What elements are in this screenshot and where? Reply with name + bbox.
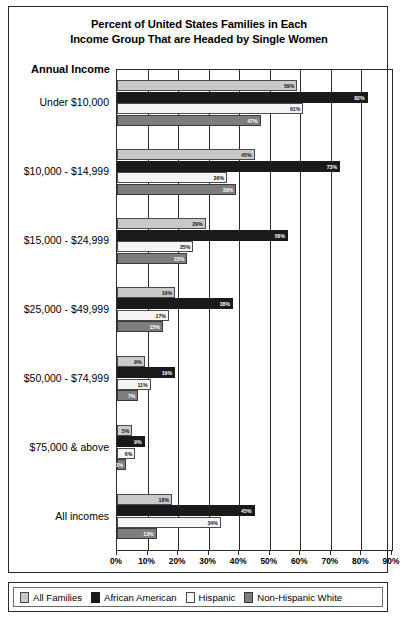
bar[interactable]: 82% [117, 92, 368, 103]
x-axis-tick [116, 551, 117, 555]
x-axis-tick [360, 551, 361, 555]
x-axis: 0%10%20%30%40%50%60%70%80%90% [116, 551, 391, 573]
bar-group: $15,000 - $24,99929%56%25%23% [117, 207, 392, 276]
chart-card: Percent of United States Families in Eac… [8, 6, 388, 573]
x-axis-tick [208, 551, 209, 555]
bar[interactable]: 38% [117, 298, 233, 309]
legend-item[interactable]: Non-Hispanic White [244, 592, 342, 603]
category-label: $25,000 - $49,999 [0, 303, 109, 315]
bar[interactable]: 36% [117, 172, 227, 183]
bar-value-label: 15% [149, 323, 159, 331]
bar-value-label: 18% [159, 496, 169, 504]
bar-value-label: 59% [284, 82, 294, 90]
bar[interactable]: 29% [117, 218, 206, 229]
bar[interactable]: 25% [117, 241, 193, 252]
chart-title-line-1: Percent of United States Families in Eac… [9, 17, 389, 32]
bar-row: 38% [117, 298, 392, 309]
bar[interactable]: 45% [117, 505, 255, 516]
bar[interactable]: 23% [117, 253, 187, 264]
bar-value-label: 17% [156, 312, 166, 320]
plot-inner: Under $10,00059%82%61%47%$10,000 - $14,9… [116, 69, 391, 551]
bar-group: $25,000 - $49,99919%38%17%15% [117, 276, 392, 345]
legend-swatch-icon [91, 592, 100, 603]
bar[interactable]: 45% [117, 149, 255, 160]
bar-row: 6% [117, 448, 392, 459]
bar-value-label: 5% [122, 427, 130, 435]
bar-group: Under $10,00059%82%61%47% [117, 69, 392, 138]
chart-title: Percent of United States Families in Eac… [9, 17, 389, 47]
bar[interactable]: 61% [117, 103, 303, 114]
bar-value-label: 3% [116, 461, 124, 469]
category-label: All incomes [0, 510, 109, 522]
bar-row: 18% [117, 494, 392, 505]
bar-value-label: 45% [241, 507, 251, 515]
bar-value-label: 13% [143, 530, 153, 538]
bar[interactable]: 17% [117, 310, 169, 321]
bar-row: 45% [117, 149, 392, 160]
bar-value-label: 34% [207, 519, 217, 527]
x-axis-tick [391, 551, 392, 555]
bar[interactable]: 19% [117, 367, 175, 378]
category-label: $15,000 - $24,999 [0, 234, 109, 246]
legend-swatch-icon [244, 592, 253, 603]
bar-row: 11% [117, 379, 392, 390]
bar-value-label: 39% [223, 186, 233, 194]
legend-label: Hispanic [199, 592, 236, 603]
x-axis-tick [330, 551, 331, 555]
bar-row: 73% [117, 161, 392, 172]
legend-item[interactable]: Hispanic [186, 592, 236, 603]
bar-value-label: 19% [162, 369, 172, 377]
annual-income-header: Annual Income [31, 63, 110, 75]
legend-swatch-icon [186, 592, 195, 603]
bar-value-label: 11% [138, 381, 148, 389]
x-axis-tick [147, 551, 148, 555]
bar-row: 45% [117, 505, 392, 516]
bar-row: 15% [117, 321, 392, 332]
bar[interactable]: 19% [117, 287, 175, 298]
bar-row: 29% [117, 218, 392, 229]
x-axis-tick [269, 551, 270, 555]
bar-value-label: 25% [180, 243, 190, 251]
bar-value-label: 38% [220, 300, 230, 308]
bar-row: 34% [117, 517, 392, 528]
bar[interactable]: 7% [117, 390, 138, 401]
bar[interactable]: 15% [117, 321, 163, 332]
bar-group: $10,000 - $14,99945%73%36%39% [117, 138, 392, 207]
bar-row: 23% [117, 253, 392, 264]
bar[interactable]: 59% [117, 80, 297, 91]
bar-row: 19% [117, 287, 392, 298]
bar[interactable]: 5% [117, 425, 132, 436]
bar-row: 9% [117, 436, 392, 447]
legend-label: African American [104, 592, 177, 603]
x-axis-tick [299, 551, 300, 555]
bar-row: 36% [117, 172, 392, 183]
bar-value-label: 29% [192, 220, 202, 228]
bar[interactable]: 9% [117, 356, 145, 367]
bar[interactable]: 73% [117, 161, 340, 172]
bar-value-label: 23% [174, 255, 184, 263]
legend-item[interactable]: African American [91, 592, 177, 603]
bar[interactable]: 13% [117, 528, 157, 539]
chart-title-line-2: Income Group That are Headed by Single W… [9, 32, 389, 47]
bar-value-label: 73% [327, 163, 337, 171]
bar-row: 56% [117, 230, 392, 241]
bar[interactable]: 39% [117, 184, 236, 195]
bar[interactable]: 18% [117, 494, 172, 505]
bar[interactable]: 6% [117, 448, 135, 459]
bar-row: 7% [117, 390, 392, 401]
bar-row: 61% [117, 103, 392, 114]
bar[interactable]: 9% [117, 436, 145, 447]
bar-group: All incomes18%45%34%13% [117, 482, 392, 551]
bar-row: 5% [117, 425, 392, 436]
bar-row: 39% [117, 184, 392, 195]
bar-value-label: 7% [128, 392, 136, 400]
x-axis-tick [177, 551, 178, 555]
bar[interactable]: 11% [117, 379, 151, 390]
legend-item[interactable]: All Families [20, 592, 82, 603]
bar[interactable]: 47% [117, 115, 261, 126]
bar[interactable]: 3% [117, 459, 126, 470]
bar[interactable]: 56% [117, 230, 288, 241]
bar-value-label: 82% [354, 94, 364, 102]
bar-value-label: 45% [241, 151, 251, 159]
bar[interactable]: 34% [117, 517, 221, 528]
